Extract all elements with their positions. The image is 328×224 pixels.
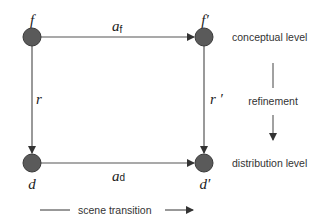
node-label-f: f [30, 12, 36, 28]
edge-label-af-main: a [112, 18, 120, 34]
edge-label-r: r [36, 91, 42, 107]
edge-label-af-sub: f [120, 24, 123, 35]
edge-label-af: af [112, 18, 123, 35]
node-d [23, 154, 41, 172]
level-refinement: refinement [248, 95, 298, 107]
node-label-d: d [28, 176, 36, 192]
edge-label-r-prime: r ′ [210, 91, 224, 107]
legend-scene-transition: scene transition [78, 204, 152, 216]
node-f-prime [195, 28, 213, 46]
edge-label-ad-sub: d [120, 172, 126, 183]
state-transition-diagram: f f′ d d′ af ad r r ′ conceptual level r… [0, 0, 328, 224]
node-label-f-prime: f′ [201, 12, 209, 28]
node-d-prime [195, 154, 213, 172]
level-conceptual: conceptual level [232, 31, 307, 43]
edge-label-ad: ad [112, 168, 125, 184]
level-distribution: distribution level [232, 157, 307, 169]
node-f [23, 28, 41, 46]
edge-label-ad-main: a [112, 168, 120, 184]
node-label-d-prime: d′ [200, 176, 212, 192]
